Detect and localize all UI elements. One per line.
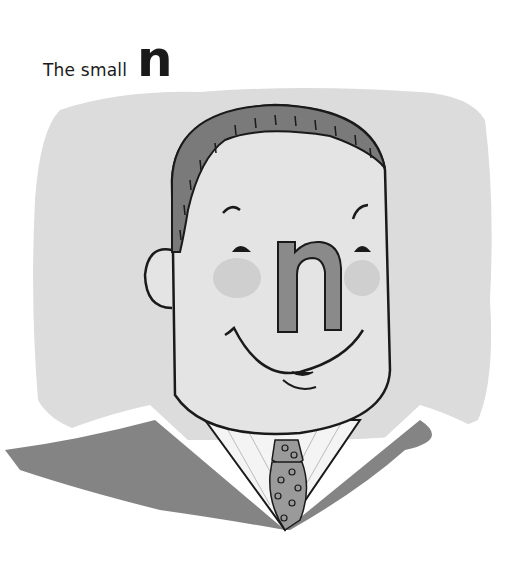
illustration bbox=[0, 0, 513, 566]
lower-lip bbox=[292, 372, 313, 375]
right-cheek bbox=[344, 260, 380, 296]
left-cheek bbox=[213, 258, 261, 298]
